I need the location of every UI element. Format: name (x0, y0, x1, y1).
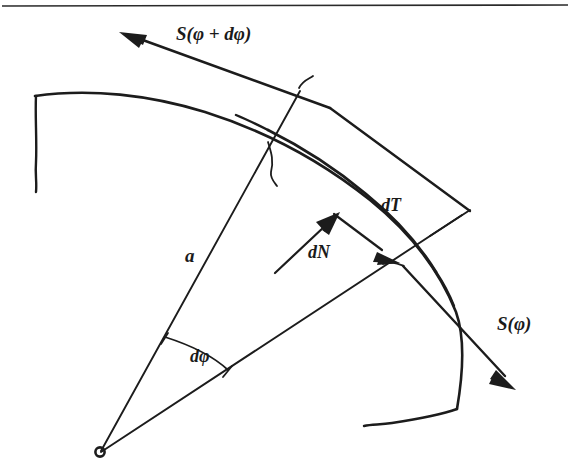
label-angle: dφ (190, 346, 210, 366)
page-background (0, 0, 570, 474)
outer-arc-left-stub (36, 96, 37, 192)
label-tension-in: S(φ) (497, 313, 531, 335)
figure-canvas: S(φ + dφ) S(φ) dN dT a dφ (0, 0, 570, 474)
label-radius: a (185, 245, 195, 266)
mechanics-diagram: S(φ + dφ) S(φ) dN dT a dφ (0, 0, 570, 474)
label-tangential-force: dT (381, 195, 402, 215)
top-horizontal-rule (2, 5, 568, 6)
label-normal-force: dN (308, 242, 331, 262)
label-tension-out: S(φ + dφ) (176, 23, 251, 45)
